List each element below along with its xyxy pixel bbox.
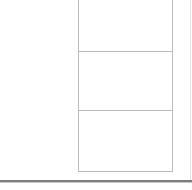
panel-box-1[interactable] <box>78 0 173 52</box>
left-margin-area <box>0 0 78 172</box>
right-edge-hairline <box>190 0 191 180</box>
screenshot-canvas <box>0 0 192 190</box>
panel-column <box>78 0 173 172</box>
panel-box-3[interactable] <box>78 110 173 172</box>
footer-area <box>0 183 192 190</box>
panel-box-2[interactable] <box>78 51 173 111</box>
